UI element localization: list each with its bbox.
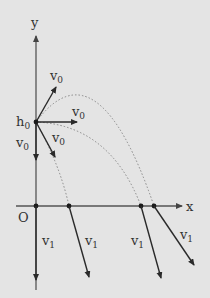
- v1-mid-label: v1: [130, 233, 144, 250]
- origin-label: O: [18, 210, 29, 225]
- v1-origin-label: v1: [41, 233, 55, 250]
- v1-near-label: v1: [84, 233, 98, 250]
- v0-down-label: v0: [15, 135, 29, 152]
- x-axis-label: x: [186, 199, 194, 214]
- v0-up-right-arrow: [36, 87, 56, 122]
- launch-point: [34, 120, 39, 125]
- v0-down-right-label: v0: [51, 130, 65, 147]
- trajectory-up-right: [36, 95, 154, 206]
- v0-up-right-label: v0: [49, 68, 63, 85]
- v1-far-label: v1: [179, 227, 193, 244]
- y-axis-label: y: [30, 15, 39, 30]
- projectile-diagram: y x O v0 v0 v0 v0 h0 v1 v1 v1 v1: [0, 0, 210, 298]
- v0-horizontal-label: v0: [71, 104, 85, 121]
- h0-label: h0: [16, 114, 30, 131]
